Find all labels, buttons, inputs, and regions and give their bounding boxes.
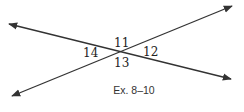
intersecting-lines-diagram: 11 12 14 13 Ex. 8–10 (0, 0, 244, 112)
ascending-line (12, 6, 232, 96)
angle-label-14: 14 (83, 46, 99, 60)
angle-label-11: 11 (114, 36, 129, 50)
angle-label-13: 13 (114, 56, 129, 70)
angle-label-12: 12 (143, 45, 158, 59)
figure-caption: Ex. 8–10 (113, 84, 155, 96)
